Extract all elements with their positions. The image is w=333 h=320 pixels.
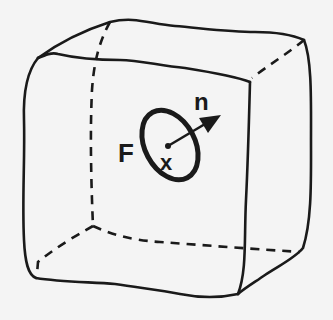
deformable-body-diagram: F x n [0,0,333,320]
label-n: n [194,88,209,115]
label-x: x [160,150,173,175]
label-F: F [118,138,134,168]
body-hidden-edges [37,22,304,274]
